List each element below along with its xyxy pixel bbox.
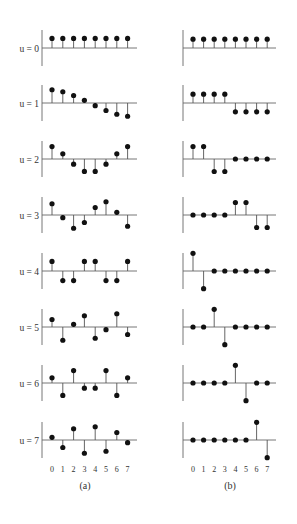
stem-marker: [212, 212, 217, 217]
x-tick-label: 7: [126, 465, 130, 474]
row-label: u = 7: [19, 436, 39, 446]
stem-marker: [71, 368, 76, 373]
stem-marker: [125, 144, 130, 149]
stem-marker: [125, 36, 130, 41]
stem-marker: [82, 169, 87, 174]
stem-marker: [82, 36, 87, 41]
row-label: u = 0: [19, 44, 39, 54]
stem-marker: [93, 259, 98, 264]
stem-marker: [60, 445, 65, 450]
x-tick-label: 2: [212, 465, 216, 474]
stem-marker: [265, 268, 270, 273]
stem-marker: [233, 437, 238, 442]
stem-marker: [49, 317, 54, 322]
stem-marker: [265, 109, 270, 114]
row-label: u = 3: [19, 211, 39, 221]
stem-marker: [49, 259, 54, 264]
stem-marker: [190, 437, 195, 442]
stem-marker: [49, 435, 54, 440]
x-tick-label: 4: [233, 465, 237, 474]
stem-marker: [201, 286, 206, 291]
stem-marker: [233, 156, 238, 161]
stem-marker: [222, 342, 227, 347]
panel-b-haar-basis: [183, 30, 276, 460]
stem-marker: [114, 311, 119, 316]
stem-marker: [222, 92, 227, 97]
stem-marker: [254, 156, 259, 161]
dct-haar-basis-figure: u = 0u = 1u = 2u = 3u = 4u = 5u = 6u = 7…: [0, 0, 297, 524]
stem-marker: [82, 451, 87, 456]
stem-marker: [212, 437, 217, 442]
row-label: u = 2: [19, 155, 39, 165]
stem-marker: [114, 278, 119, 283]
stem-marker: [212, 268, 217, 273]
stem-marker: [190, 92, 195, 97]
stem-marker: [190, 144, 195, 149]
stem-marker: [265, 37, 270, 42]
stem-marker: [190, 212, 195, 217]
stem-marker: [125, 332, 130, 337]
stem-marker: [49, 375, 54, 380]
x-tick-label: 5: [104, 465, 108, 474]
stem-marker: [114, 36, 119, 41]
stem-marker: [114, 210, 119, 215]
stem-row: [42, 197, 137, 233]
x-tick-label: 3: [223, 465, 227, 474]
stem-row: [183, 307, 276, 348]
stem-marker: [201, 437, 206, 442]
stem-marker: [243, 268, 248, 273]
stem-row: [42, 309, 137, 345]
stem-marker: [243, 200, 248, 205]
stem-row: [183, 197, 276, 233]
stem-marker: [49, 87, 54, 92]
x-tick-label: 7: [265, 465, 269, 474]
stem-marker: [93, 36, 98, 41]
stem-marker: [233, 109, 238, 114]
panel-a-dct-basis: [42, 30, 137, 458]
stem-marker: [254, 324, 259, 329]
stem-marker: [233, 200, 238, 205]
stem-marker: [49, 36, 54, 41]
stem-marker: [71, 322, 76, 327]
stem-marker: [190, 37, 195, 42]
stem-marker: [103, 199, 108, 204]
stem-marker: [60, 338, 65, 343]
stem-marker: [125, 259, 130, 264]
x-tick-label: 6: [115, 465, 119, 474]
stem-row: [183, 30, 276, 66]
stem-row: [42, 30, 137, 66]
stem-row: [42, 141, 137, 177]
stem-marker: [201, 144, 206, 149]
stem-marker: [103, 36, 108, 41]
stem-row: [42, 365, 137, 401]
stem-marker: [103, 449, 108, 454]
stem-marker: [265, 455, 270, 460]
row-label: u = 5: [19, 323, 39, 333]
stem-marker: [114, 430, 119, 435]
x-tick-label: 3: [82, 465, 86, 474]
stem-marker: [254, 380, 259, 385]
stem-marker: [243, 324, 248, 329]
caption-a: (a): [79, 480, 90, 492]
stem-row: [183, 363, 276, 404]
x-tick-label: 4: [93, 465, 97, 474]
stem-marker: [93, 336, 98, 341]
stem-marker: [60, 278, 65, 283]
stem-marker: [201, 380, 206, 385]
stem-marker: [243, 437, 248, 442]
stem-marker: [265, 324, 270, 329]
stem-marker: [243, 37, 248, 42]
stem-marker: [60, 89, 65, 94]
stem-marker: [254, 37, 259, 42]
stem-marker: [103, 327, 108, 332]
stem-marker: [212, 92, 217, 97]
stem-marker: [222, 169, 227, 174]
stem-row: [42, 422, 137, 458]
row-label: u = 6: [19, 379, 39, 389]
x-tick-label: 6: [255, 465, 259, 474]
stem-marker: [93, 424, 98, 429]
stem-marker: [125, 440, 130, 445]
stem-marker: [93, 205, 98, 210]
x-tick-label: 5: [244, 465, 248, 474]
stem-row: [42, 85, 137, 121]
